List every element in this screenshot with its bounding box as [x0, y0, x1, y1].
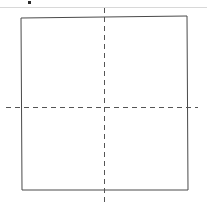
- top-left-glyph-fragment-icon: [28, 1, 31, 4]
- figure-canvas: Square outline with dashed vertical and …: [0, 0, 207, 204]
- technical-drawing-svg: [0, 0, 207, 204]
